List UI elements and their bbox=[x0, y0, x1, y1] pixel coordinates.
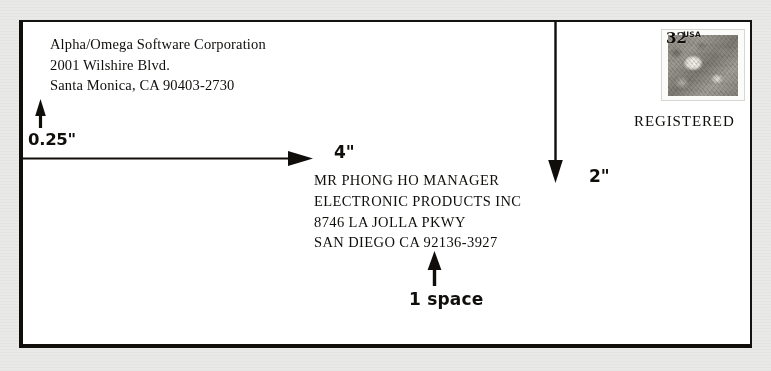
destination-address-line-3: 8746 LA JOLLA PKWY bbox=[314, 212, 521, 233]
stamp-country-label: USA bbox=[683, 31, 701, 39]
diagram-canvas: Alpha/Omega Software Corporation 2001 Wi… bbox=[0, 0, 771, 371]
registered-endorsement-label: REGISTERED bbox=[634, 113, 735, 130]
destination-address-line-4: SAN DIEGO CA 92136-3927 bbox=[314, 232, 521, 253]
callout-top-margin-label: 2" bbox=[589, 166, 610, 186]
destination-address-line-1: MR PHONG HO MANAGER bbox=[314, 170, 521, 191]
callout-left-indent-label: 4" bbox=[334, 142, 355, 162]
destination-address-block: MR PHONG HO MANAGER ELECTRONIC PRODUCTS … bbox=[314, 170, 521, 253]
callout-left-margin-label: 0.25" bbox=[28, 130, 76, 149]
return-address-line-1: Alpha/Omega Software Corporation bbox=[50, 34, 266, 55]
postage-stamp-icon: 32 USA bbox=[661, 29, 745, 101]
destination-address-line-2: ELECTRONIC PRODUCTS INC bbox=[314, 191, 521, 212]
callout-line-spacing-label: 1 space bbox=[409, 289, 484, 309]
return-address-line-2: 2001 Wilshire Blvd. bbox=[50, 55, 266, 76]
return-address-line-3: Santa Monica, CA 90403-2730 bbox=[50, 75, 266, 96]
return-address-block: Alpha/Omega Software Corporation 2001 Wi… bbox=[50, 34, 266, 96]
